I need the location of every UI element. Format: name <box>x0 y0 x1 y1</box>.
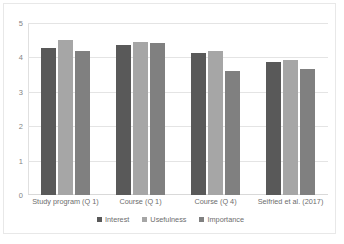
chart-frame: 543210 Study program (Q 1)Course (Q 1)Co… <box>3 3 336 234</box>
chart-legend: InterestUsefulnessImportance <box>4 215 337 224</box>
x-axis-category-label: Study program (Q 1) <box>28 197 103 206</box>
bar-interest[interactable] <box>266 62 281 195</box>
bar-group <box>253 23 328 195</box>
bar-group <box>103 23 178 195</box>
bar-usefulness[interactable] <box>58 40 73 195</box>
x-axis-category-label: Course (Q 4) <box>178 197 253 206</box>
legend-swatch-icon <box>199 217 204 222</box>
bars-layer <box>28 23 328 195</box>
x-axis-category-labels: Study program (Q 1)Course (Q 1)Course (Q… <box>28 197 328 211</box>
legend-item-importance[interactable]: Importance <box>199 215 244 224</box>
bar-usefulness[interactable] <box>283 60 298 195</box>
legend-label: Usefulness <box>150 215 186 224</box>
bar-importance[interactable] <box>300 69 315 195</box>
y-axis-tick-label: 1 <box>19 156 23 165</box>
legend-label: Importance <box>207 215 244 224</box>
bar-usefulness[interactable] <box>133 42 148 195</box>
bar-group <box>178 23 253 195</box>
y-axis-tick-label: 3 <box>19 87 23 96</box>
legend-swatch-icon <box>97 217 102 222</box>
bar-usefulness[interactable] <box>208 51 223 195</box>
bar-interest[interactable] <box>116 45 131 195</box>
legend-item-usefulness[interactable]: Usefulness <box>142 215 186 224</box>
legend-label: Interest <box>105 215 129 224</box>
bar-importance[interactable] <box>225 71 240 195</box>
y-axis-tick-label: 4 <box>19 53 23 62</box>
x-axis-category-label: Course (Q 1) <box>103 197 178 206</box>
y-axis-tick-label: 5 <box>19 19 23 28</box>
plot-area: 543210 <box>28 23 328 195</box>
y-axis-tick-label: 2 <box>19 122 23 131</box>
bar-group <box>28 23 103 195</box>
bar-importance[interactable] <box>150 43 165 195</box>
y-axis-tick-label: 0 <box>19 191 23 200</box>
x-axis-category-label: Seifried et al. (2017) <box>253 197 328 206</box>
legend-item-interest[interactable]: Interest <box>97 215 129 224</box>
bar-interest[interactable] <box>41 48 56 195</box>
bar-interest[interactable] <box>191 53 206 195</box>
legend-swatch-icon <box>142 217 147 222</box>
bar-importance[interactable] <box>75 51 90 195</box>
